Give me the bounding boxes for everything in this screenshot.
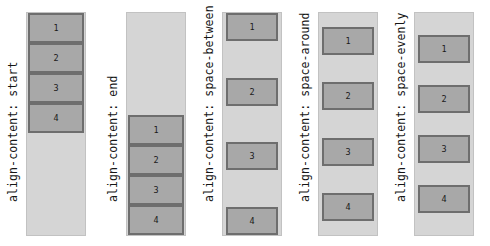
label-slot-space-around: align-content: space-around — [292, 0, 318, 246]
demo-label-space-around: align-content: space-around — [298, 12, 312, 202]
flex-item: 1 — [226, 13, 278, 41]
demo-label-end: align-content: end — [106, 76, 120, 202]
flex-container-start: 1 2 3 4 — [26, 12, 86, 236]
flex-item: 2 — [128, 145, 184, 175]
demo-label-space-evenly: align-content: space-evenly — [394, 12, 408, 202]
flex-container-space-evenly: 1 2 3 4 — [414, 12, 474, 236]
flex-item: 4 — [128, 205, 184, 235]
flex-item: 2 — [28, 43, 84, 73]
flex-container-space-between: 1 2 3 4 — [222, 12, 282, 236]
flex-item: 4 — [322, 193, 374, 221]
flex-item: 2 — [226, 78, 278, 106]
demo-label-start: align-content: start — [6, 62, 20, 202]
flex-item: 4 — [226, 207, 278, 235]
label-slot-space-evenly: align-content: space-evenly — [388, 0, 414, 246]
flex-item: 3 — [226, 142, 278, 170]
flex-container-space-around: 1 2 3 4 — [318, 12, 378, 236]
flex-container-end: 1 2 3 4 — [126, 12, 186, 236]
demo-align-content-start: align-content: start 1 2 3 4 — [0, 0, 86, 246]
flex-item: 1 — [418, 35, 470, 63]
label-slot-space-between: align-content: space-between — [196, 0, 222, 246]
demo-align-content-end: align-content: end 1 2 3 4 — [100, 0, 186, 246]
label-slot-start: align-content: start — [0, 0, 26, 246]
flex-item: 2 — [418, 85, 470, 113]
flex-item: 3 — [128, 175, 184, 205]
align-content-demo-board: align-content: start 1 2 3 4 align-conte… — [0, 0, 490, 246]
flex-item: 1 — [322, 27, 374, 55]
demo-align-content-space-between: align-content: space-between 1 2 3 4 — [196, 0, 282, 246]
flex-item: 3 — [322, 138, 374, 166]
demo-align-content-space-evenly: align-content: space-evenly 1 2 3 4 — [388, 0, 474, 246]
flex-item: 2 — [322, 82, 374, 110]
demo-label-space-between: align-content: space-between — [202, 5, 216, 202]
flex-item: 4 — [28, 103, 84, 133]
demo-align-content-space-around: align-content: space-around 1 2 3 4 — [292, 0, 378, 246]
flex-item: 1 — [128, 115, 184, 145]
label-slot-end: align-content: end — [100, 0, 126, 246]
flex-item: 3 — [28, 73, 84, 103]
flex-item: 3 — [418, 135, 470, 163]
flex-item: 4 — [418, 185, 470, 213]
flex-item: 1 — [28, 13, 84, 43]
